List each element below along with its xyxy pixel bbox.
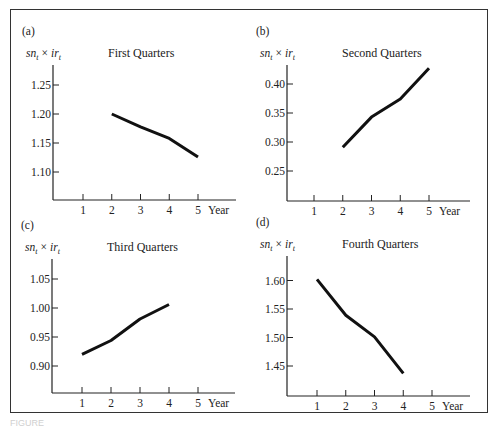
y-tick-label: 1.00 <box>30 302 50 314</box>
y-tick-label: 1.20 <box>31 108 51 120</box>
x-tick-label: 2 <box>343 400 349 412</box>
x-tick-label: 5 <box>195 204 201 216</box>
data-line <box>112 114 198 157</box>
x-tick-label: 5 <box>429 400 435 412</box>
y-tick-label: 1.60 <box>265 275 285 287</box>
x-axis-label: Year <box>208 397 229 409</box>
y-tick-label: 1.25 <box>31 79 51 91</box>
panel-d: (d)snt×irtFourth Quarters12345Year1.451.… <box>256 216 470 412</box>
y-tick-label: 1.55 <box>265 303 285 315</box>
panel-label: (a) <box>22 25 35 38</box>
y-axis-label: snt×irt <box>260 47 296 62</box>
y-tick-label: 1.10 <box>31 166 51 178</box>
y-axis-label: snt×irt <box>26 47 62 62</box>
panel-a: (a)snt×irtFirst Quarters12345Year1.101.1… <box>22 25 236 216</box>
x-tick-label: 2 <box>109 204 115 216</box>
y-axis-label: snt×irt <box>260 238 296 253</box>
panel-title: Third Quarters <box>107 240 178 254</box>
x-tick-label: 3 <box>369 205 375 217</box>
panel-title: Fourth Quarters <box>342 237 419 251</box>
panel-label: (b) <box>256 25 270 38</box>
y-tick-label: 0.40 <box>265 78 285 90</box>
x-tick-label: 3 <box>137 397 143 409</box>
x-tick-label: 1 <box>314 400 320 412</box>
figure-svg: (a)snt×irtFirst Quarters12345Year1.101.1… <box>0 0 495 429</box>
x-tick-label: 4 <box>166 397 172 409</box>
x-tick-label: 4 <box>400 400 406 412</box>
x-tick-label: 1 <box>311 205 317 217</box>
y-tick-label: 0.35 <box>265 107 285 119</box>
x-tick-label: 2 <box>340 205 346 217</box>
y-axis-label: snt×irt <box>25 241 61 256</box>
x-axis-label: Year <box>442 400 463 412</box>
panel-label: (d) <box>256 216 270 229</box>
x-tick-label: 1 <box>79 397 85 409</box>
y-tick-label: 1.05 <box>30 273 50 285</box>
y-tick-label: 1.50 <box>265 332 285 344</box>
x-tick-label: 4 <box>166 204 172 216</box>
data-line <box>82 305 169 355</box>
panel-title: Second Quarters <box>342 46 422 60</box>
x-tick-label: 3 <box>138 204 144 216</box>
x-tick-label: 5 <box>426 205 432 217</box>
y-tick-label: 1.45 <box>265 360 285 372</box>
data-line <box>317 279 403 373</box>
figure-caption: FIGURE <box>10 418 44 428</box>
y-tick-label: 0.90 <box>30 360 50 372</box>
x-axis-label: Year <box>439 205 460 217</box>
x-tick-label: 4 <box>397 205 403 217</box>
x-tick-label: 2 <box>108 397 114 409</box>
y-tick-label: 0.25 <box>265 165 285 177</box>
data-line <box>343 68 429 147</box>
x-tick-label: 1 <box>80 204 86 216</box>
x-axis-label: Year <box>208 204 229 216</box>
x-tick-label: 3 <box>372 400 378 412</box>
x-tick-label: 5 <box>195 397 201 409</box>
y-tick-label: 0.30 <box>265 136 285 148</box>
y-tick-label: 0.95 <box>30 331 50 343</box>
panel-c: (c)snt×irtThird Quarters12345Year0.900.9… <box>21 219 235 409</box>
panel-label: (c) <box>21 219 34 232</box>
panel-title: First Quarters <box>108 46 175 60</box>
y-tick-label: 1.15 <box>31 137 51 149</box>
panel-b: (b)snt×irtSecond Quarters12345Year0.250.… <box>256 25 470 217</box>
